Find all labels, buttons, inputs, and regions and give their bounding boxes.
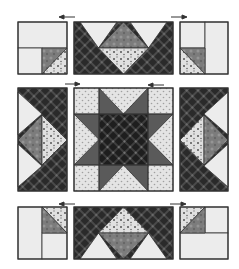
pressing-arrow-bottom-right <box>170 202 186 206</box>
unit-bottom-flying-geese <box>74 207 173 259</box>
pressing-arrow-middle-right <box>148 83 164 87</box>
pressing-arrow-top-left <box>59 15 75 19</box>
pressing-arrow-bottom-left <box>59 202 75 206</box>
quilt-diagram-canvas <box>0 0 239 269</box>
pressing-arrow-top-right <box>171 15 187 19</box>
quilt-diagram <box>0 0 239 269</box>
unit-bottom-right-corner <box>180 207 228 259</box>
unit-top-right-corner <box>180 22 228 74</box>
pressing-arrow-middle-left <box>65 82 80 86</box>
unit-bottom-left-corner <box>18 207 67 259</box>
unit-top-flying-geese <box>74 22 173 74</box>
unit-top-left-corner <box>18 22 67 74</box>
unit-left-flying-geese <box>18 88 67 191</box>
unit-right-flying-geese <box>180 88 228 191</box>
unit-center-star <box>74 88 173 191</box>
